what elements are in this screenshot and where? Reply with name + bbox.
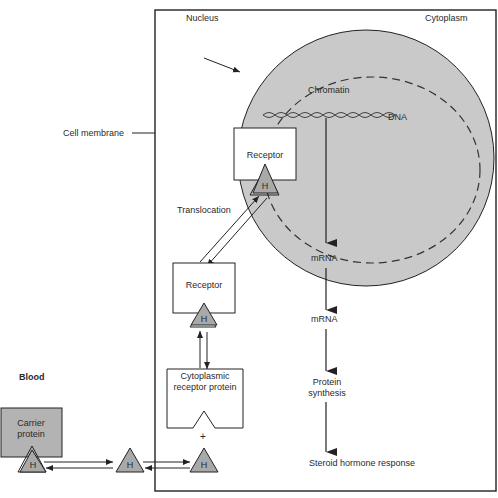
hormone-h-blood: H bbox=[123, 460, 137, 471]
carrier-protein-label: Carrier protein bbox=[5, 418, 57, 440]
steroid-response-label: Steroid hormone response bbox=[309, 458, 415, 469]
diagram-canvas bbox=[0, 0, 498, 498]
cytoplasm-label: Cytoplasm bbox=[425, 13, 468, 24]
mrna-cytoplasm-label: mRNA bbox=[311, 314, 338, 325]
mrna-nuclear-label: mRNA bbox=[311, 253, 338, 264]
cytoplasmic-receptor-label: Receptor bbox=[173, 280, 235, 291]
hormone-h-carrier: H bbox=[26, 460, 40, 471]
plus-sign: + bbox=[200, 431, 206, 442]
hormone-h-cytoplasm: H bbox=[197, 460, 211, 471]
chromatin-label: Chromatin bbox=[308, 85, 350, 96]
translocation-label: Translocation bbox=[177, 205, 231, 216]
nucleus-label: Nucleus bbox=[186, 13, 219, 24]
blood-label: Blood bbox=[19, 372, 45, 383]
nuclear-receptor-label: Receptor bbox=[234, 150, 296, 161]
hormone-h-receptor: H bbox=[197, 314, 211, 325]
cell-membrane-label: Cell membrane bbox=[63, 128, 124, 139]
dna-label: DNA bbox=[388, 112, 407, 123]
hormone-h-nuclear: H bbox=[258, 181, 272, 192]
protein-synthesis-label: Protein synthesis bbox=[296, 377, 358, 399]
cytoplasmic-receptor-protein-label: Cytoplasmic receptor protein bbox=[168, 371, 242, 393]
